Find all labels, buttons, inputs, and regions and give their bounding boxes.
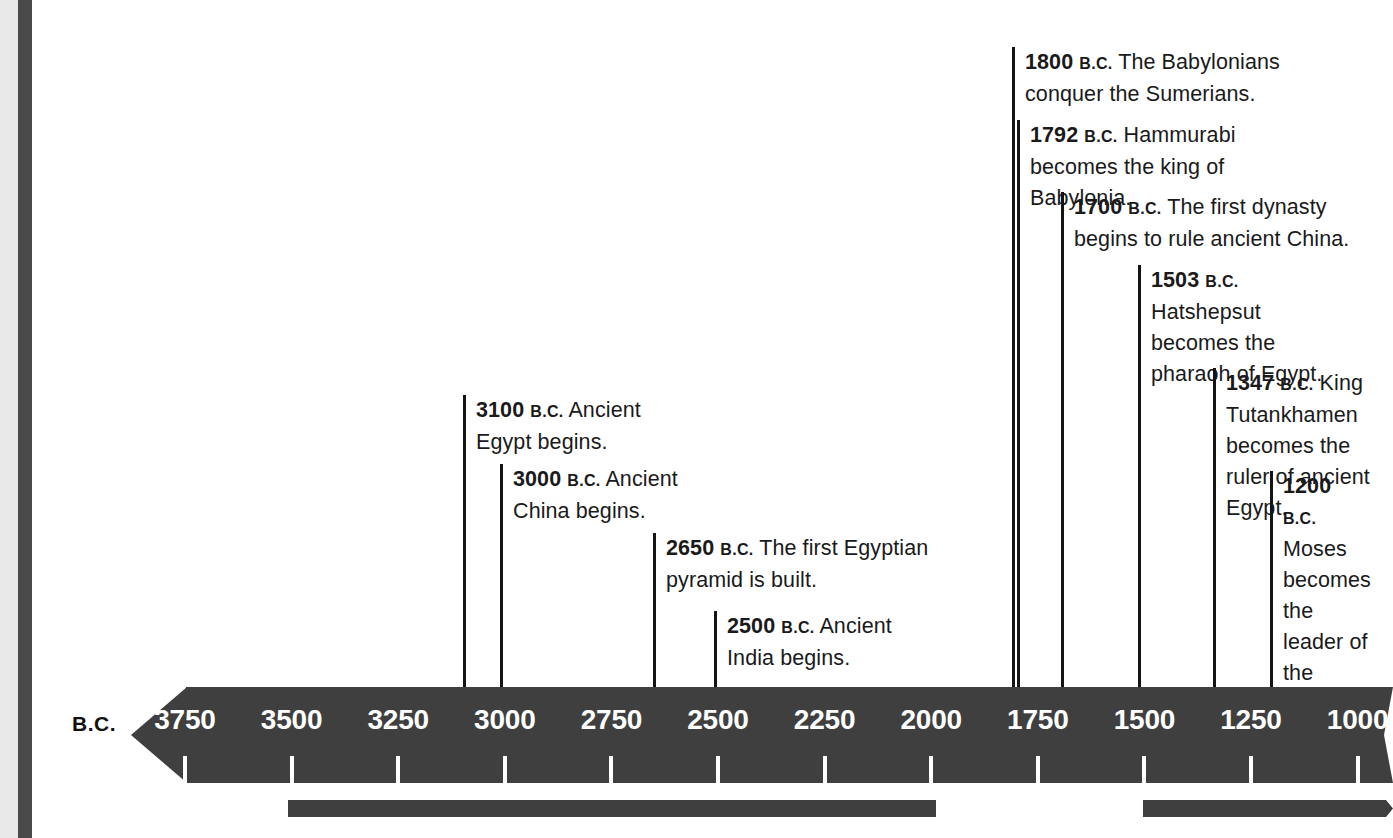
axis-tick-label: 2750 [581,704,643,736]
event-era: B.C. [530,403,563,420]
leader-line-1200 [1270,471,1273,688]
event-year: 1200 [1283,474,1331,498]
event-era: B.C. [1280,376,1313,393]
event-year: 3100 [476,398,524,422]
axis-tick-label: 2500 [687,704,749,736]
axis-tick-label: 1500 [1114,704,1176,736]
event-era: B.C. [1128,200,1161,217]
axis-tick-mark [1249,756,1253,783]
leader-line-1800 [1012,47,1015,688]
axis-tick-mark [396,756,400,783]
leader-line-1700 [1061,192,1064,688]
axis-tick-mark [503,756,507,783]
page-gutter [0,0,18,838]
event-era: B.C. [781,619,814,636]
axis-tick-label: 3000 [474,704,536,736]
timeline-axis: 3750350032503000275025002250200017501500… [131,687,1393,783]
axis-tick-mark [609,756,613,783]
page-spine [18,0,32,838]
event-callout-1700: 1700 B.C. The first dynasty begins to ru… [1061,192,1351,255]
event-era: B.C. [720,541,753,558]
event-era: B.C. [1283,510,1316,527]
event-callout-3000: 3000 B.C. Ancient China begins. [500,464,690,527]
axis-tick-label: 2250 [794,704,856,736]
axis-tick-label: 3500 [261,704,323,736]
event-era: B.C. [1079,55,1112,72]
leader-line-1503 [1138,265,1141,688]
event-callout-3100: 3100 B.C. Ancient Egypt begins. [463,395,648,458]
axis-tick-label: 2000 [900,704,962,736]
axis-tick-label: 1250 [1220,704,1282,736]
event-year: 3000 [513,467,561,491]
leader-line-2650 [653,533,656,688]
axis-tick-mark [290,756,294,783]
leader-line-1347 [1213,368,1216,688]
axis-tick-label: 3750 [154,704,216,736]
event-era: B.C. [567,472,600,489]
era-span-bar-1 [288,800,936,817]
leader-line-3000 [500,464,503,688]
leader-line-1792 [1017,120,1020,688]
axis-era-label: B.C. [72,712,116,736]
event-year: 2650 [666,536,714,560]
axis-tick-mark [1036,756,1040,783]
era-span-bar-2 [1143,800,1393,817]
event-year: 1700 [1074,195,1122,219]
axis-tick-label: 3250 [367,704,429,736]
event-callout-2650: 2650 B.C. The first Egyptian pyramid is … [653,533,931,596]
event-callout-1800: 1800 B.C. The Babylonians conquer the Su… [1012,47,1302,110]
axis-tick-mark [1142,756,1146,783]
axis-tick-label: 1750 [1007,704,1069,736]
event-callout-1200: 1200 B.C. Moses becomes the leader of th… [1270,471,1368,720]
axis-tick-mark [183,756,187,783]
leader-line-2500 [714,611,717,688]
axis-tick-mark [1356,756,1360,783]
event-era: B.C. [1205,273,1238,290]
axis-tick-mark [929,756,933,783]
axis-tick-mark [823,756,827,783]
event-year: 1792 [1030,123,1078,147]
event-year: 1800 [1025,50,1073,74]
timeline-infographic: 3100 B.C. Ancient Egypt begins. 3000 B.C… [0,0,1393,838]
event-year: 1503 [1151,268,1199,292]
axis-tick-mark [716,756,720,783]
event-year: 1347 [1226,371,1274,395]
event-callout-2500: 2500 B.C. Ancient India begins. [714,611,904,674]
axis-tick-label: 1000 [1327,704,1389,736]
event-year: 2500 [727,614,775,638]
leader-line-3100 [463,395,466,688]
event-era: B.C. [1084,128,1117,145]
